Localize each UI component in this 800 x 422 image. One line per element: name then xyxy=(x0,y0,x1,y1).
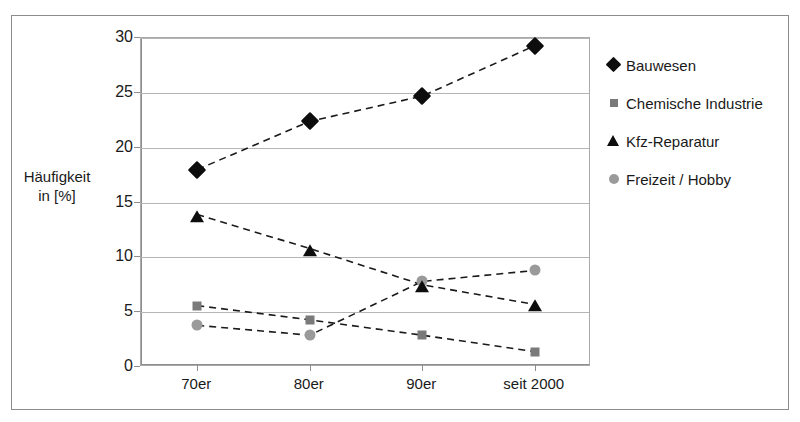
data-point xyxy=(529,265,540,276)
circle-marker-icon xyxy=(304,330,315,341)
square-marker-icon xyxy=(606,95,622,111)
y-axis-tick-label: 25 xyxy=(115,84,133,100)
legend-item-label: Freizeit / Hobby xyxy=(626,171,731,188)
x-axis-tick-mark xyxy=(535,365,536,371)
data-point xyxy=(191,163,204,176)
y-axis-tick-label: 10 xyxy=(115,248,133,264)
circle-marker-icon xyxy=(192,320,203,331)
legend-item[interactable]: Freizeit / Hobby xyxy=(606,160,781,198)
x-axis-tick-mark xyxy=(197,365,198,371)
triangle-marker-icon xyxy=(606,133,622,149)
triangle-marker-icon xyxy=(190,210,204,222)
x-axis-tick-label: seit 2000 xyxy=(503,376,564,391)
diamond-marker-icon xyxy=(606,57,622,73)
chart-figure: Häufigkeit in [%] 051015202530 70er80er9… xyxy=(0,0,800,422)
legend-item-label: Chemische Industrie xyxy=(626,95,763,112)
x-axis-tick-label: 90er xyxy=(406,376,436,391)
x-axis-tick-mark xyxy=(310,365,311,371)
square-marker-icon xyxy=(530,347,539,356)
y-axis-tick-label: 5 xyxy=(124,303,133,319)
y-axis-tick-labels: 051015202530 xyxy=(95,37,133,366)
data-point xyxy=(305,315,314,324)
legend: BauwesenChemische IndustrieKfz-Reparatur… xyxy=(606,46,781,198)
triangle-marker-icon xyxy=(303,244,317,256)
data-point xyxy=(418,331,427,340)
square-marker-icon xyxy=(305,315,314,324)
data-point xyxy=(528,300,542,312)
series-lines xyxy=(141,38,591,367)
legend-item[interactable]: Chemische Industrie xyxy=(606,84,781,122)
circle-marker-icon xyxy=(606,171,622,187)
y-axis-tick-label: 0 xyxy=(124,358,133,374)
y-axis-tick-mark xyxy=(134,366,140,367)
data-point xyxy=(192,320,203,331)
x-axis-tick-label: 80er xyxy=(294,376,324,391)
data-point xyxy=(190,210,204,222)
data-point xyxy=(415,280,429,292)
data-point xyxy=(303,244,317,256)
y-axis-title-line1: Häufigkeit xyxy=(18,168,96,187)
diamond-marker-icon xyxy=(413,87,431,105)
diamond-marker-icon xyxy=(188,160,206,178)
legend-item-label: Kfz-Reparatur xyxy=(626,133,719,150)
y-axis-tick-label: 15 xyxy=(115,194,133,210)
series-line xyxy=(197,306,535,352)
triangle-marker-icon xyxy=(528,300,542,312)
data-point xyxy=(416,90,429,103)
square-marker-icon xyxy=(193,301,202,310)
legend-item[interactable]: Bauwesen xyxy=(606,46,781,84)
data-point xyxy=(530,347,539,356)
series-line xyxy=(197,270,535,335)
plot-area xyxy=(140,37,590,366)
data-point xyxy=(528,39,541,52)
series-line xyxy=(197,46,535,170)
data-point xyxy=(303,115,316,128)
circle-marker-icon xyxy=(529,265,540,276)
legend-item[interactable]: Kfz-Reparatur xyxy=(606,122,781,160)
x-axis-tick-mark xyxy=(422,365,423,371)
square-marker-icon xyxy=(418,331,427,340)
y-axis-tick-label: 20 xyxy=(115,139,133,155)
y-axis-tick-label: 30 xyxy=(115,29,133,45)
legend-item-label: Bauwesen xyxy=(626,57,696,74)
data-point xyxy=(304,330,315,341)
y-axis-title-line2: in [%] xyxy=(18,187,96,206)
diamond-marker-icon xyxy=(301,112,319,130)
x-axis-tick-label: 70er xyxy=(181,376,211,391)
triangle-marker-icon xyxy=(415,280,429,292)
y-axis-title: Häufigkeit in [%] xyxy=(18,168,96,206)
series-line xyxy=(197,215,535,305)
data-point xyxy=(193,301,202,310)
diamond-marker-icon xyxy=(526,36,544,54)
